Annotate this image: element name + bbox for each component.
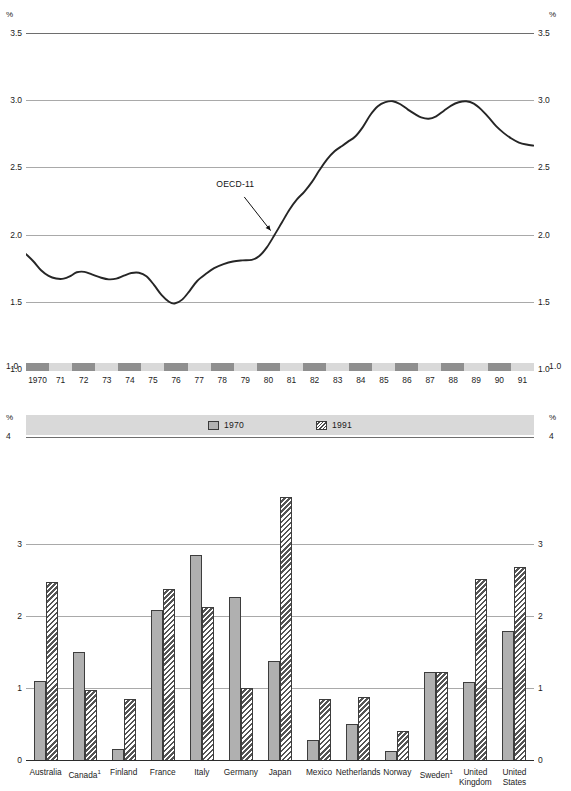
year-label-75: 75	[148, 375, 157, 385]
bar-group-mexico[interactable]: Mexico	[300, 472, 339, 760]
bar-group-france[interactable]: France	[143, 472, 182, 760]
bar-ytick-1: 1	[17, 683, 22, 693]
line-ytick-right-2.0: 2.0	[538, 230, 550, 240]
year-band-segment	[395, 363, 418, 371]
bar-category-label-norway: Norway	[383, 767, 411, 777]
bar-unit-left: %	[6, 413, 13, 422]
bar-group-netherlands[interactable]: Netherlands	[339, 472, 378, 760]
bar-1970-finland[interactable]	[112, 749, 124, 760]
line-ytick-left-2.5: 2.5	[10, 162, 22, 172]
bar-1970-united-kingdom[interactable]	[463, 682, 475, 760]
bar-1970-united-states[interactable]	[502, 631, 514, 760]
line-chart-panel: % % 1.01.01.51.52.02.02.52.53.03.03.53.5…	[0, 0, 571, 400]
legend-item-1970[interactable]: 1970	[208, 420, 244, 430]
year-band-segment	[164, 363, 187, 371]
year-label-79: 79	[241, 375, 250, 385]
bar-category-label-finland: Finland	[110, 767, 137, 777]
year-band-segment	[234, 363, 257, 371]
year-label-91: 91	[518, 375, 527, 385]
bar-1970-sweden[interactable]	[424, 672, 436, 760]
line-ytick-left-3.5: 3.5	[10, 28, 22, 38]
year-band-segment	[464, 363, 487, 371]
bar-1991-united-kingdom[interactable]	[475, 579, 487, 760]
year-label-84: 84	[356, 375, 365, 385]
year-band-segment	[303, 363, 326, 371]
bar-group-italy[interactable]: Italy	[182, 472, 221, 760]
year-label-83: 83	[333, 375, 342, 385]
bar-group-finland[interactable]: Finland	[104, 472, 143, 760]
bar-category-label-united-states: UnitedStates	[502, 767, 526, 787]
bar-1991-finland[interactable]	[124, 699, 136, 760]
year-axis-band	[26, 363, 534, 371]
legend-swatch-1970-icon	[208, 421, 219, 430]
year-band-segment	[372, 363, 395, 371]
bar-category-label-mexico: Mexico	[306, 767, 332, 777]
bar-1991-mexico[interactable]	[319, 699, 331, 760]
bar-1970-netherlands[interactable]	[346, 724, 358, 760]
year-band-segment	[349, 363, 372, 371]
year-label-80: 80	[264, 375, 273, 385]
bar-1991-italy[interactable]	[202, 607, 214, 760]
bar-1991-netherlands[interactable]	[358, 697, 370, 760]
bar-category-label-united-kingdom: UnitedKingdom	[459, 767, 492, 787]
bar-group-canada[interactable]: Canada1	[65, 472, 104, 760]
bar-group-germany[interactable]: Germany	[221, 472, 260, 760]
bar-1970-japan[interactable]	[268, 661, 280, 760]
year-label-87: 87	[425, 375, 434, 385]
bar-ytick-3: 3	[538, 539, 543, 549]
legend-item-1991[interactable]: 1991	[316, 420, 352, 430]
year-band-segment	[49, 363, 72, 371]
bar-1970-australia[interactable]	[34, 681, 46, 760]
bar-group-united-kingdom[interactable]: UnitedKingdom	[456, 472, 495, 760]
bar-1991-australia[interactable]	[46, 582, 58, 760]
bar-ytick-2: 2	[17, 611, 22, 621]
year-label-89: 89	[472, 375, 481, 385]
legend-swatch-1991-icon	[316, 421, 327, 430]
bar-category-label-japan: Japan	[269, 767, 292, 777]
line-ytick-right-3.0: 3.0	[538, 95, 550, 105]
year-label-74: 74	[125, 375, 134, 385]
year-band-segment	[141, 363, 164, 371]
bar-1970-mexico[interactable]	[307, 740, 319, 760]
year-label-85: 85	[379, 375, 388, 385]
year-band-segment	[118, 363, 141, 371]
bar-1991-germany[interactable]	[241, 688, 253, 760]
year-band-segment	[26, 363, 49, 371]
bar-1991-norway[interactable]	[397, 731, 409, 760]
year-label-86: 86	[402, 375, 411, 385]
bar-1991-sweden[interactable]	[436, 672, 448, 760]
bar-category-label-netherlands: Netherlands	[336, 767, 381, 777]
bar-1991-united-states[interactable]	[514, 567, 526, 760]
bar-category-label-germany: Germany	[224, 767, 258, 777]
bar-1991-france[interactable]	[163, 589, 175, 760]
line-unit-right: %	[549, 10, 556, 19]
bar-group-sweden[interactable]: Sweden1	[417, 472, 456, 760]
bar-1970-france[interactable]	[151, 610, 163, 760]
year-band-segment	[280, 363, 303, 371]
bar-group-norway[interactable]: Norway	[378, 472, 417, 760]
year-band-segment	[488, 363, 511, 371]
bar-1970-germany[interactable]	[229, 597, 241, 760]
annotation-arrow-icon	[26, 33, 534, 369]
bar-1970-norway[interactable]	[385, 751, 397, 760]
bar-category-label-sweden: Sweden1	[420, 767, 453, 780]
bar-1991-canada[interactable]	[85, 690, 97, 760]
chart-page: % % 1.01.01.51.52.02.02.52.53.03.03.53.5…	[0, 0, 571, 791]
bar-gridline-0	[26, 760, 534, 761]
line-ytick-right-1.0: 1.0	[549, 361, 561, 371]
bar-plot-area: 0123 0123 AustraliaCanada1FinlandFranceI…	[26, 472, 534, 760]
year-label-77: 77	[195, 375, 204, 385]
bar-group-united-states[interactable]: UnitedStates	[495, 472, 534, 760]
bar-1991-japan[interactable]	[280, 497, 292, 760]
year-label-73: 73	[102, 375, 111, 385]
year-axis-labels: 1970717273747576777879808182838485868788…	[26, 375, 534, 387]
line-ytick-right-1.5: 1.5	[538, 297, 550, 307]
bar-group-japan[interactable]: Japan	[260, 472, 299, 760]
legend-label-1970: 1970	[224, 420, 244, 430]
bar-category-label-australia: Australia	[29, 767, 61, 777]
bar-ytick-0: 0	[538, 755, 543, 765]
bar-group-australia[interactable]: Australia	[26, 472, 65, 760]
bar-1970-canada[interactable]	[73, 652, 85, 760]
oecd-11-annotation-label: OECD-11	[216, 179, 254, 189]
bar-1970-italy[interactable]	[190, 555, 202, 760]
